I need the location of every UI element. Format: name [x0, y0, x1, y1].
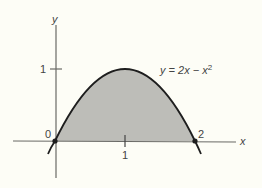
- root-point-0: [52, 138, 57, 143]
- parabola-chart: y x 0 1 2 1 y = 2x − x2: [0, 0, 262, 188]
- y-axis-label: y: [51, 13, 59, 25]
- x-tick-label-1: 1: [122, 149, 128, 161]
- equation-main: y = 2x − x: [159, 64, 208, 76]
- x-tick-label-2: 2: [198, 128, 204, 140]
- y-tick-label-1: 1: [40, 63, 46, 75]
- equation-exponent: 2: [208, 63, 213, 72]
- x-axis-label: x: [239, 135, 246, 147]
- equation-label: y = 2x − x2: [159, 63, 213, 76]
- root-point-2: [192, 138, 197, 143]
- origin-label: 0: [45, 128, 51, 140]
